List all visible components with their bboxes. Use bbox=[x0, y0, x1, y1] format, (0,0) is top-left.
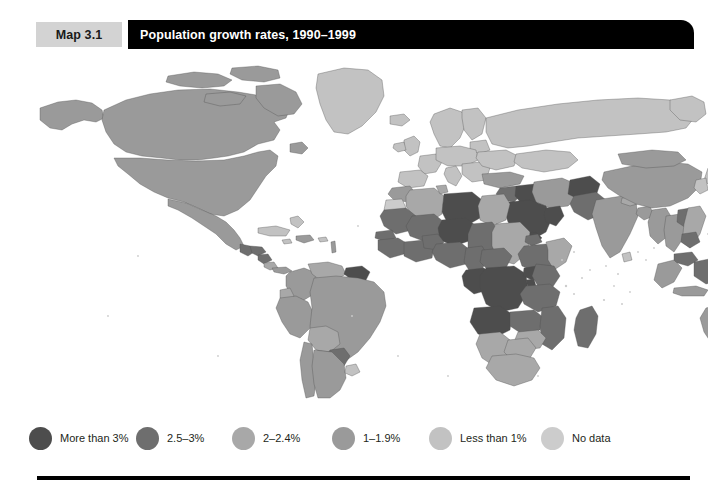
country-finland bbox=[462, 108, 486, 140]
legend-item-no-data: No data bbox=[541, 424, 611, 452]
country-puerto-rico bbox=[318, 237, 328, 242]
legend-swatch-icon bbox=[232, 427, 255, 450]
country-dr-congo bbox=[480, 266, 528, 312]
country-hispaniola bbox=[296, 235, 314, 243]
country-korea bbox=[694, 178, 708, 194]
country-cuba bbox=[258, 226, 290, 236]
country-lesser-antilles bbox=[331, 241, 336, 253]
map-title-bar: Population growth rates, 1990–1999 bbox=[128, 20, 694, 49]
country-uk bbox=[404, 136, 420, 156]
country-kazakhstan bbox=[514, 150, 578, 172]
map-number-label: Map 3.1 bbox=[56, 28, 103, 42]
country-bahamas bbox=[290, 216, 304, 228]
country-canada-arctic-1 bbox=[166, 72, 232, 88]
country-greenland bbox=[316, 68, 384, 134]
map-number-badge: Map 3.1 bbox=[36, 22, 122, 47]
legend-swatch-icon bbox=[541, 427, 564, 450]
country-canada-newfoundland bbox=[290, 142, 308, 154]
country-peru bbox=[276, 296, 314, 338]
country-egypt bbox=[478, 194, 510, 226]
legend-swatch-icon bbox=[332, 427, 355, 450]
country-java bbox=[673, 286, 708, 296]
map-country-layer bbox=[40, 66, 708, 398]
legend-swatch-icon bbox=[29, 427, 52, 450]
country-south-africa bbox=[486, 354, 540, 386]
footer-rule bbox=[37, 476, 690, 480]
country-nigeria bbox=[432, 242, 470, 268]
country-italy bbox=[444, 166, 462, 186]
map-title: Population growth rates, 1990–1999 bbox=[128, 28, 356, 42]
country-canada-arctic-2 bbox=[230, 66, 280, 82]
country-scandinavia bbox=[430, 108, 466, 148]
legend-label: 2–2.4% bbox=[263, 432, 300, 444]
country-jamaica bbox=[282, 239, 292, 244]
country-uruguay bbox=[345, 364, 360, 376]
legend-item-more-than-3: More than 3% bbox=[29, 424, 128, 452]
country-malawi-mozambique bbox=[540, 306, 566, 350]
country-zambia bbox=[510, 310, 544, 334]
country-turkey bbox=[482, 172, 524, 188]
legend-label: More than 3% bbox=[60, 432, 128, 444]
map-header: Map 3.1 Population growth rates, 1990–19… bbox=[36, 20, 694, 49]
legend-label: 1–1.9% bbox=[363, 432, 400, 444]
country-iceland bbox=[390, 114, 410, 126]
country-alaska bbox=[40, 100, 104, 130]
world-choropleth-svg bbox=[18, 56, 708, 401]
legend-label: 2.5–3% bbox=[167, 432, 204, 444]
country-sumatra bbox=[654, 260, 682, 288]
legend-item-2-to-2-4: 2–2.4% bbox=[232, 424, 300, 452]
legend-label: Less than 1% bbox=[460, 432, 527, 444]
legend-item-less-than-1: Less than 1% bbox=[429, 424, 527, 452]
country-sri-lanka bbox=[622, 252, 632, 262]
map-legend: More than 3% 2.5–3% 2–2.4% 1–1.9% Less t… bbox=[29, 424, 709, 454]
country-ireland bbox=[393, 142, 406, 152]
country-australia bbox=[700, 298, 708, 366]
legend-swatch-icon bbox=[136, 427, 159, 450]
legend-item-1-to-1-9: 1–1.9% bbox=[332, 424, 400, 452]
country-russia bbox=[486, 98, 694, 148]
country-spain-portugal bbox=[398, 170, 428, 188]
country-madagascar bbox=[574, 306, 598, 348]
country-guinea-sierra-leone-liberia bbox=[378, 238, 408, 258]
world-map-figure bbox=[18, 56, 708, 401]
legend-item-2-5-to-3: 2.5–3% bbox=[136, 424, 204, 452]
legend-swatch-icon bbox=[429, 427, 452, 450]
legend-label: No data bbox=[572, 432, 611, 444]
country-borneo bbox=[694, 258, 708, 284]
